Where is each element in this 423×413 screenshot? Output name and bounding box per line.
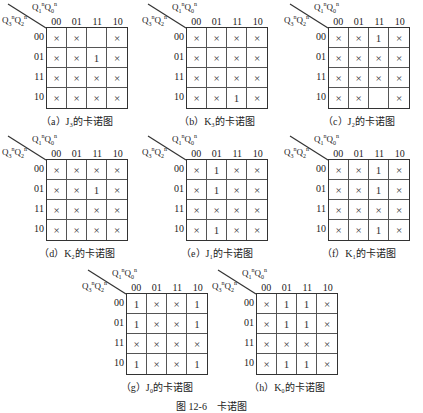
row-label: 00 — [164, 27, 184, 47]
row-label: 01 — [234, 313, 254, 333]
column-label: 11 — [87, 148, 108, 159]
kmap-cell: 1 — [207, 180, 227, 200]
row-label: 11 — [104, 333, 124, 353]
kmap-cell: 1 — [207, 160, 227, 180]
row-label: 11 — [306, 67, 326, 87]
kmap-caption: （c）J₂的卡诺图 — [284, 113, 423, 128]
column-label: 10 — [248, 16, 269, 27]
kmap-cell: 1 — [369, 160, 389, 180]
column-label: 01 — [207, 16, 228, 27]
column-label: 11 — [227, 16, 248, 27]
kmap-cell: × — [247, 88, 267, 108]
column-label: 00 — [46, 148, 67, 159]
column-label: 00 — [186, 148, 207, 159]
kmap-caption: （b）K₃的卡诺图 — [142, 113, 292, 128]
kmap-cell: × — [329, 200, 349, 220]
kmap-cell: 1 — [297, 314, 317, 334]
kmap-cell: 1 — [127, 354, 147, 374]
kmap-cell: × — [349, 200, 369, 220]
column-label: 10 — [390, 148, 411, 159]
kmap-cell: 1 — [187, 294, 207, 314]
row-variables: Q3nQ2n — [284, 14, 309, 27]
kmap-cell: 1 — [277, 354, 297, 374]
kmap-cell: × — [207, 88, 227, 108]
kmap-cell: × — [167, 334, 187, 354]
row-variables: Q3nQ2n — [142, 146, 167, 159]
kmap-cell: × — [329, 220, 349, 240]
kmap-cell — [87, 28, 107, 48]
kmap-cell: × — [187, 334, 207, 354]
kmap-cell: × — [167, 354, 187, 374]
kmap-cell: × — [349, 48, 369, 68]
kmap-cell: × — [87, 68, 107, 88]
kmap-cell: × — [257, 294, 277, 314]
column-variables: Q1nQ0n — [314, 133, 339, 146]
kmap-grid: ××××××××××××××1× — [186, 27, 268, 109]
kmap-cell: × — [349, 68, 369, 88]
kmap-cell: × — [187, 200, 207, 220]
kmap-cell: 1 — [227, 88, 247, 108]
kmap-cell: × — [247, 200, 267, 220]
kmap-cell: × — [317, 314, 337, 334]
row-variables: Q3nQ2n — [142, 14, 167, 27]
kmap-cell: × — [147, 294, 167, 314]
row-label: 10 — [164, 219, 184, 239]
kmap-cell: 1 — [87, 48, 107, 68]
row-label: 10 — [164, 87, 184, 107]
kmap-grid: ×1×××1×××××××1×× — [186, 159, 268, 241]
kmap-cell: × — [187, 220, 207, 240]
column-label: 10 — [188, 282, 209, 293]
column-label: 11 — [297, 282, 318, 293]
kmap-cell: × — [389, 180, 409, 200]
kmap-cell: × — [227, 28, 247, 48]
row-labels: 00011110 — [306, 27, 326, 107]
kmap-cell: × — [47, 88, 67, 108]
kmap-grid: ××1×××1×××××××1× — [328, 159, 410, 241]
column-labels: 00011110 — [46, 148, 128, 159]
kmap-cell: × — [47, 68, 67, 88]
kmap-cell: × — [167, 294, 187, 314]
kmap-f: Q1nQ0nQ3nQ2n0001111000011110××1×××1×××××… — [284, 134, 423, 264]
column-label: 11 — [369, 148, 390, 159]
kmap-cell: × — [207, 68, 227, 88]
row-label: 10 — [306, 219, 326, 239]
kmap-cell: × — [207, 28, 227, 48]
row-label: 00 — [24, 27, 44, 47]
kmap-cell: × — [227, 180, 247, 200]
kmap-cell: × — [67, 200, 87, 220]
row-variables: Q3nQ2n — [284, 146, 309, 159]
kmap-cell: × — [147, 354, 167, 374]
kmap-grid: ××××××1××××××××× — [46, 159, 128, 241]
kmap-h: Q1nQ0nQ3nQ2n0001111000011110×11××11×××××… — [212, 268, 352, 398]
row-labels: 00011110 — [234, 293, 254, 373]
column-label: 10 — [108, 148, 129, 159]
kmap-cell: × — [107, 48, 127, 68]
column-variables: Q1nQ0n — [242, 267, 267, 280]
kmap-cell: 1 — [207, 220, 227, 240]
column-variables: Q1nQ0n — [172, 1, 197, 14]
kmap-cell: × — [389, 160, 409, 180]
kmap-cell: × — [247, 160, 267, 180]
kmap-cell: 1 — [127, 314, 147, 334]
kmap-cell: × — [47, 200, 67, 220]
kmap-caption: （e）J₁的卡诺图 — [142, 245, 292, 260]
row-label: 11 — [164, 67, 184, 87]
kmap-cell: × — [47, 160, 67, 180]
kmap-cell: × — [107, 220, 127, 240]
kmap-cell: 1 — [369, 180, 389, 200]
column-label: 10 — [108, 16, 129, 27]
kmap-cell: × — [147, 314, 167, 334]
kmap-cell: × — [389, 28, 409, 48]
kmap-cell: × — [87, 88, 107, 108]
kmap-cell: × — [247, 68, 267, 88]
column-label: 01 — [349, 148, 370, 159]
kmap-cell: × — [87, 200, 107, 220]
kmap-cell: × — [187, 48, 207, 68]
kmap-grid: ×××××1××××××××× — [46, 27, 128, 109]
column-label: 00 — [126, 282, 147, 293]
row-label: 11 — [164, 199, 184, 219]
kmap-grid: 1××11××1××××1××1 — [126, 293, 208, 375]
kmap-cell: × — [257, 314, 277, 334]
column-label: 01 — [147, 282, 168, 293]
column-labels: 00011110 — [46, 16, 128, 27]
